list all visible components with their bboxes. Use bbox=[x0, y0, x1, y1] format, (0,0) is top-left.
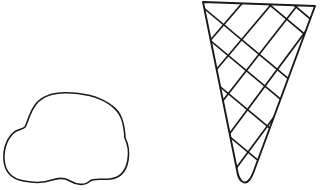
drawing-canvas bbox=[0, 0, 325, 190]
waffle-cone bbox=[195, 0, 320, 190]
ice-cream-scoop-outline bbox=[4, 93, 129, 185]
scene-svg bbox=[0, 0, 325, 190]
